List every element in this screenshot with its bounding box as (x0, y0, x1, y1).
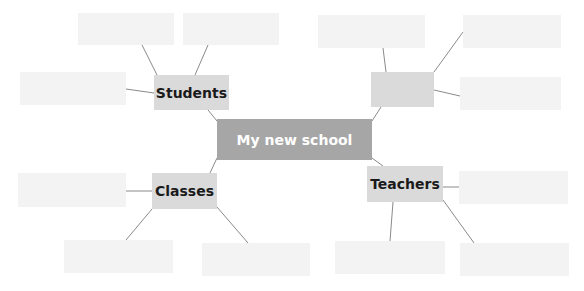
teachers-leaf-1[interactable] (459, 171, 568, 204)
branch-students: Students (154, 75, 229, 110)
students-leaf-1[interactable] (78, 13, 174, 45)
center-node: My new school (217, 119, 372, 160)
classes-leaf-1[interactable] (18, 173, 126, 207)
branch-teachers: Teachers (367, 166, 443, 202)
branch-classes-label: Classes (155, 183, 214, 199)
teachers-leaf-2[interactable] (335, 241, 445, 274)
branch-classes: Classes (152, 173, 217, 209)
center-label: My new school (237, 132, 353, 148)
unlabeled-leaf-3[interactable] (460, 77, 561, 110)
unlabeled-leaf-1[interactable] (318, 15, 425, 48)
unlabeled-leaf-2[interactable] (463, 15, 561, 48)
branch-unlabeled[interactable] (371, 72, 434, 107)
branch-students-label: Students (156, 85, 227, 101)
classes-leaf-3[interactable] (202, 243, 310, 276)
teachers-leaf-3[interactable] (460, 243, 569, 276)
students-leaf-2[interactable] (183, 13, 279, 45)
branch-teachers-label: Teachers (370, 176, 440, 192)
classes-leaf-2[interactable] (64, 240, 173, 273)
students-leaf-3[interactable] (20, 72, 126, 105)
